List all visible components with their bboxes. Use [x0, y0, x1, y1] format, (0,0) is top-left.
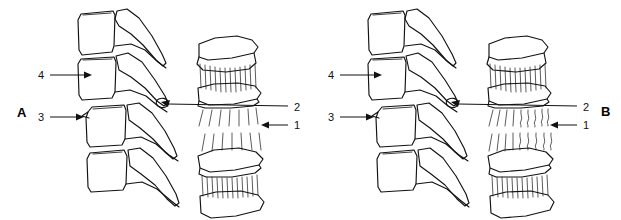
- callout-label-b4: 4: [328, 69, 334, 81]
- panel-a-annulus-fibers-lower: [202, 175, 258, 198]
- figure-canvas: 4 3 2 1 A 4 3: [0, 0, 621, 220]
- callout-label-b3: 3: [328, 111, 334, 123]
- panel-a-lower-disc-block: [198, 133, 264, 218]
- panel-a-annulus-fibers-upper: [200, 64, 256, 92]
- panel-b-annulus-fibers-lower: [492, 175, 548, 198]
- callout-label-a4: 4: [38, 69, 44, 81]
- panel-a-free-fibers-upper: [199, 108, 258, 126]
- panel-letter-a: A: [17, 105, 27, 120]
- panel-b-callout-1: 1: [550, 119, 589, 131]
- panel-a-vertebral-bodies: [78, 11, 127, 192]
- callout-label-b2: 2: [583, 101, 589, 113]
- panel-b-free-fibers-upper-disrupted: [489, 109, 549, 127]
- panel-b-annulus-fibers-upper: [490, 64, 546, 92]
- panel-b-lower-disc-block: [488, 133, 554, 218]
- panel-a-callout-3: 3: [38, 111, 84, 123]
- callout-label-a1: 1: [294, 119, 300, 131]
- panel-a-upper-disc-block: [197, 36, 261, 126]
- panel-b-callout-4: 4: [328, 69, 382, 81]
- panel-a-callout-1: 1: [261, 119, 300, 131]
- callout-label-b1: 1: [583, 119, 589, 131]
- panel-b-upper-disc-block: [487, 36, 551, 127]
- callout-label-a3: 3: [38, 111, 44, 123]
- panel-b-vertebral-bodies: [368, 11, 417, 192]
- panel-b-drawing: [368, 9, 554, 218]
- panel-a-drawing: [78, 9, 264, 218]
- callout-label-a2: 2: [294, 101, 300, 113]
- panel-a-callout-2: 2: [161, 100, 300, 113]
- panel-a-callout-4: 4: [38, 69, 92, 81]
- panel-letter-b: B: [601, 104, 610, 119]
- spine-illustration: 4 3 2 1 A 4 3: [0, 0, 621, 220]
- panel-b-callout-3: 3: [328, 111, 374, 123]
- panel-b-callout-2: 2: [451, 100, 589, 113]
